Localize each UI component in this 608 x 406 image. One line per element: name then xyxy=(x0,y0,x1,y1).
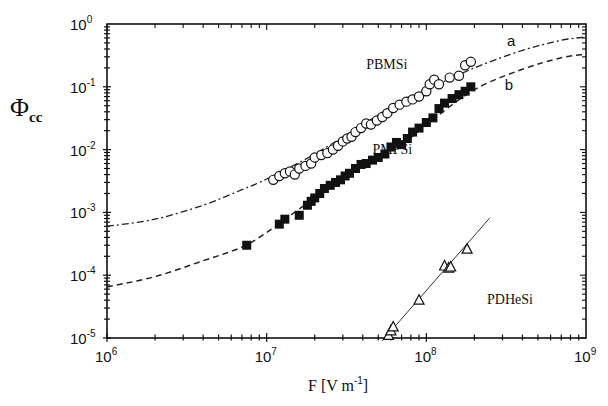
series-label-pbmsi: PBMSi xyxy=(366,57,407,72)
x-axis-title: F [V m-1] xyxy=(308,375,368,394)
x-tick-label: 107 xyxy=(255,346,278,365)
y-tick-label: 100 xyxy=(70,14,93,33)
pbmsi-point xyxy=(466,57,475,66)
y-tick-label: 10-4 xyxy=(70,265,96,284)
curve-label-a: a xyxy=(507,32,516,49)
pmpsi-point xyxy=(280,215,289,224)
pdhesi-fit-line xyxy=(382,218,490,341)
data-markers xyxy=(242,57,475,339)
y-tick-label: 10-5 xyxy=(70,328,96,347)
chart: 10610710810910010-110-210-310-410-5 PBMS… xyxy=(0,0,608,406)
y-tick-label: 10-2 xyxy=(70,140,96,159)
x-tick-label: 109 xyxy=(574,346,597,365)
x-axis-title-base: F [V m xyxy=(308,377,354,394)
series-label-pdhesi: PDHeSi xyxy=(487,292,533,307)
curve-a xyxy=(107,37,586,226)
pmpsi-point xyxy=(428,113,437,122)
pbmsi-point xyxy=(454,71,463,80)
pmpsi-point xyxy=(242,241,251,250)
pdhesi-point xyxy=(414,295,424,305)
pmpsi-point xyxy=(466,82,475,91)
y-axis-title-main: Φ xyxy=(10,93,29,122)
x-axis-title-close: ] xyxy=(363,377,368,394)
pbmsi-point xyxy=(445,73,454,82)
pdhesi-point xyxy=(388,321,398,331)
x-tick-label: 108 xyxy=(414,346,437,365)
pbmsi-point xyxy=(434,80,443,89)
x-tick-label: 106 xyxy=(95,346,118,365)
y-tick-label: 10-1 xyxy=(70,77,96,96)
curve-label-b: b xyxy=(505,76,513,93)
y-axis-title-sub: cc xyxy=(29,109,43,125)
y-tick-label: 10-3 xyxy=(70,202,96,221)
series-label-pmpsi: PMPSi xyxy=(372,142,412,157)
y-axis-title: Φcc xyxy=(10,93,43,125)
pmpsi-point xyxy=(295,211,304,220)
